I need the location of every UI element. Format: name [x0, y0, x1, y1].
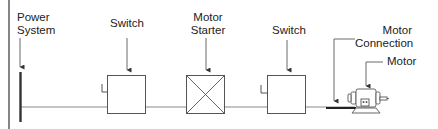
motor-connection-label: Motor Connection [355, 24, 412, 50]
motor-connection-label-line2: Connection [355, 37, 412, 50]
switch-handle-icon [261, 85, 267, 93]
motor-arrow [366, 62, 383, 86]
switch-2-label: Switch [272, 24, 306, 37]
motor-label: Motor [387, 55, 416, 68]
motor-starter-label: Motor Starter [189, 11, 227, 37]
one-line-diagram: Power System Switch Motor Starter Switch… [0, 0, 438, 129]
motor-starter-label-line1: Motor [189, 11, 227, 24]
power-system-label-line1: Power [17, 11, 55, 24]
motor-icon [348, 62, 389, 113]
power-system-label-line2: System [17, 24, 55, 37]
power-system-symbol [20, 38, 21, 122]
switch-handle-icon [102, 84, 107, 92]
motor-connection-label-line1: Motor [355, 24, 412, 37]
switch-2-symbol [261, 40, 306, 114]
switch-1-symbol [102, 38, 146, 114]
motor-starter-label-line2: Starter [189, 24, 227, 37]
motor-starter-symbol [187, 38, 225, 114]
switch-1-label: Switch [110, 17, 144, 30]
power-system-label: Power System [17, 11, 55, 37]
